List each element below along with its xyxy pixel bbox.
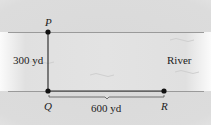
label-p: P bbox=[45, 16, 52, 28]
label-qr-length: 600 yd bbox=[91, 102, 121, 114]
label-river: River bbox=[167, 54, 191, 66]
point-q bbox=[45, 88, 50, 93]
brace-qr bbox=[49, 95, 164, 99]
label-q: Q bbox=[44, 100, 52, 112]
point-p bbox=[45, 29, 50, 34]
point-r bbox=[161, 88, 166, 93]
label-pq-length: 300 yd bbox=[13, 54, 43, 66]
label-r: R bbox=[161, 100, 168, 112]
